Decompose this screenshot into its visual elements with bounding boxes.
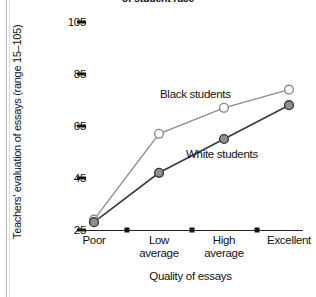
data-point-marker [155,168,164,177]
chart-plot-area: Teachers' evaluation of essays (range 15… [0,0,316,297]
data-point-marker [285,85,294,94]
data-point-marker [285,101,294,110]
data-point-marker [155,129,164,138]
series-line-white-students [94,105,289,222]
series-label-black-students: Black students [160,88,231,100]
data-point-marker [220,103,229,112]
data-point-marker [90,218,99,227]
series-label-white-students: White students [186,148,258,160]
chart-data-layer [0,0,316,297]
data-point-marker [220,135,229,144]
